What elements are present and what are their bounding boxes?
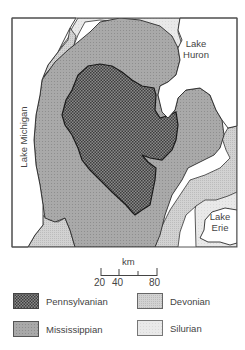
legend-label: Silurian: [170, 323, 202, 334]
legend-label: Pennsylvanian: [46, 296, 108, 307]
label-lake-huron-1: Lake: [186, 38, 207, 49]
scale-unit: km: [122, 256, 135, 267]
scale-tick-40: 40: [112, 277, 123, 288]
scale-tick-80: 80: [149, 277, 160, 288]
swatch-mississippian: [13, 321, 39, 337]
legend-item-silurian: Silurian: [137, 320, 202, 336]
scale-ruler: [100, 267, 158, 277]
legend-label: Devonian: [170, 296, 210, 307]
geologic-map: Lake Huron Lake Erie Lake Michigan: [0, 0, 245, 250]
legend-item-mississippian: Mississippian: [13, 321, 103, 337]
legend-label: Mississippian: [46, 324, 103, 335]
scale-tick-20: 20: [94, 277, 105, 288]
swatch-pennsylvanian: [13, 293, 39, 309]
label-lake-erie-2: Erie: [212, 222, 229, 233]
swatch-silurian: [137, 320, 163, 336]
swatch-devonian: [137, 293, 163, 309]
label-lake-michigan: Lake Michigan: [18, 106, 29, 167]
legend-item-devonian: Devonian: [137, 293, 210, 309]
scale-bar: km 20 40 80: [92, 256, 172, 288]
label-lake-huron-2: Huron: [183, 49, 209, 60]
label-lake-erie-1: Lake: [210, 211, 231, 222]
legend-item-pennsylvanian: Pennsylvanian: [13, 293, 108, 309]
